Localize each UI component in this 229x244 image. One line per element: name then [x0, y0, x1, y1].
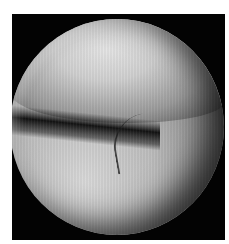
- image-frame: [12, 14, 225, 240]
- vignette-rim: [12, 19, 224, 235]
- endoscope-field: [12, 19, 224, 235]
